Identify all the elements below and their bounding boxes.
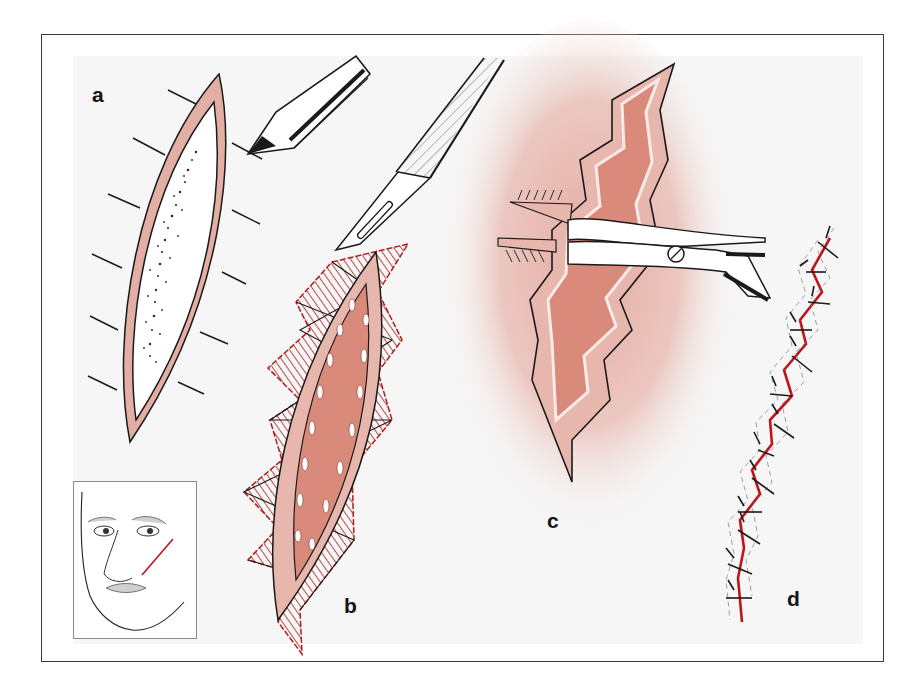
face-inset — [73, 481, 197, 639]
panel-label-c: c — [547, 510, 559, 531]
panel-label-a: a — [92, 84, 104, 105]
panel-label-b: b — [344, 595, 357, 616]
panel-b-w-plasty-excision — [244, 244, 408, 654]
panel-c-undermining — [440, 20, 770, 560]
scar-line — [142, 539, 173, 575]
face-icon — [74, 482, 196, 638]
panel-label-d: d — [787, 588, 800, 609]
marking-pen-icon — [248, 56, 370, 154]
